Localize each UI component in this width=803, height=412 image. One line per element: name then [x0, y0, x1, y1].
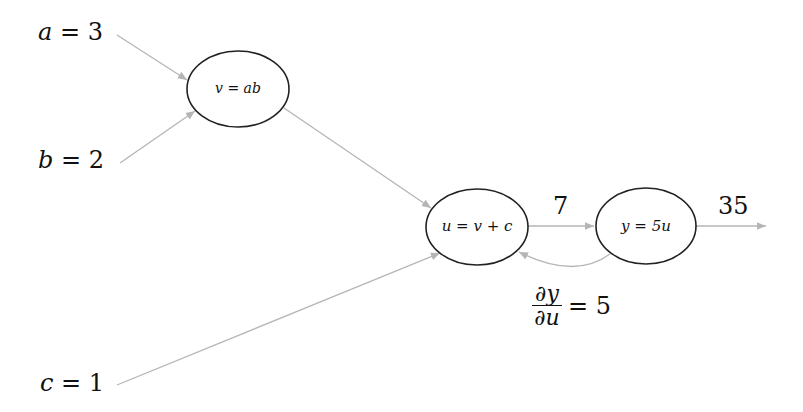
input-c-var: c	[40, 369, 53, 397]
input-a-var: a	[38, 18, 52, 46]
input-b: b = 2	[38, 146, 104, 174]
input-b-value: 2	[89, 146, 104, 174]
input-b-op: =	[61, 146, 81, 174]
edge-a-to-v	[117, 35, 187, 80]
edge-v-to-u	[284, 108, 431, 208]
edge-c-to-u	[117, 253, 440, 385]
gradient-fraction: ∂y ∂u	[532, 282, 562, 329]
node-u-label: u = v + c	[426, 217, 528, 235]
gradient-numerator: ∂y	[535, 282, 559, 305]
input-b-var: b	[38, 146, 53, 174]
edge-b-to-v	[120, 111, 195, 163]
input-c-value: 1	[89, 369, 104, 397]
edge-value-y-out: 35	[718, 192, 749, 220]
input-c: c = 1	[40, 369, 104, 397]
node-v-label: v = ab	[187, 80, 289, 96]
gradient-value: = 5	[568, 292, 611, 320]
input-a-op: =	[60, 18, 80, 46]
input-a-value: 3	[88, 18, 103, 46]
edge-value-u-to-y: 7	[553, 192, 568, 220]
edge-gradient-back	[519, 252, 610, 267]
gradient-label: ∂y ∂u = 5	[532, 282, 611, 329]
gradient-denominator: ∂u	[534, 306, 560, 329]
input-c-op: =	[61, 369, 81, 397]
input-a: a = 3	[38, 18, 103, 46]
node-y-label: y = 5u	[596, 217, 696, 235]
computation-graph	[0, 0, 803, 412]
